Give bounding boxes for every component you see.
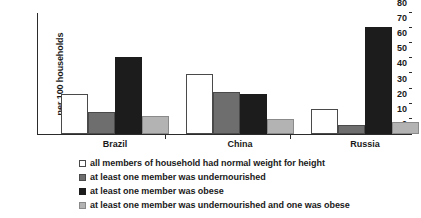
legend-label-obese: at least one member was obese — [90, 186, 224, 196]
y-tick-mark-60 — [409, 42, 412, 43]
x-axis-group-separator — [165, 135, 166, 139]
bar-brazil-normal — [61, 94, 88, 134]
x-axis-label-china: China — [227, 139, 252, 149]
y-tick-label-50: 50 — [397, 43, 407, 53]
bar-russia-under — [338, 125, 365, 134]
legend-item-both: at least one member was undernourished a… — [79, 198, 409, 212]
y-tick-mark-40 — [409, 72, 412, 73]
legend-label-both: at least one member was undernourished a… — [90, 200, 350, 210]
y-tick-label-30: 30 — [397, 74, 407, 84]
y-tick-mark-10 — [409, 118, 412, 119]
x-axis-line — [37, 134, 412, 135]
y-tick-label-70: 70 — [397, 13, 407, 23]
bar-russia-normal — [311, 109, 338, 134]
y-tick-mark-30 — [409, 88, 412, 89]
legend-label-normal-weight: all members of household had normal weig… — [90, 158, 325, 168]
bar-brazil-obese — [115, 57, 142, 134]
legend-item-undernourished: at least one member was undernourished — [79, 170, 409, 184]
y-tick-mark-50 — [409, 57, 412, 58]
bar-chart-figure: per 100 households 0 10 20 30 40 50 60 7… — [0, 0, 421, 218]
y-axis-line — [37, 13, 38, 135]
legend-label-undernourished: at least one member was undernourished — [90, 172, 266, 182]
plot-area: per 100 households 0 10 20 30 40 50 60 7… — [37, 13, 412, 135]
x-axis-label-brazil: Brazil — [103, 139, 128, 149]
bar-china-under — [213, 92, 240, 134]
x-axis-label-russia: Russia — [350, 139, 380, 149]
legend-item-normal: all members of household had normal weig… — [79, 156, 409, 170]
legend-swatch-normal-weight-icon — [79, 160, 86, 167]
bar-china-normal — [186, 74, 213, 134]
bar-china-both — [267, 119, 294, 134]
legend-item-obese: at least one member was obese — [79, 184, 409, 198]
bar-brazil-under — [88, 112, 115, 134]
legend-swatch-obese-icon — [79, 188, 86, 195]
legend-swatch-undernourished-icon — [79, 174, 86, 181]
bar-brazil-both — [142, 116, 169, 134]
legend: all members of household had normal weig… — [79, 156, 409, 212]
y-tick-label-80: 80 — [397, 0, 407, 8]
y-tick-label-10: 10 — [397, 104, 407, 114]
legend-swatch-both-icon — [79, 202, 86, 209]
bar-russia-both — [392, 122, 419, 134]
y-tick-mark-20 — [409, 103, 412, 104]
bar-china-obese — [240, 94, 267, 134]
bar-russia-obese — [365, 27, 392, 134]
y-tick-label-40: 40 — [397, 58, 407, 68]
y-tick-mark-80 — [409, 12, 412, 13]
x-axis-group-separator — [290, 135, 291, 139]
y-tick-mark-70 — [409, 27, 412, 28]
y-tick-label-20: 20 — [397, 89, 407, 99]
y-tick-label-60: 60 — [397, 28, 407, 38]
